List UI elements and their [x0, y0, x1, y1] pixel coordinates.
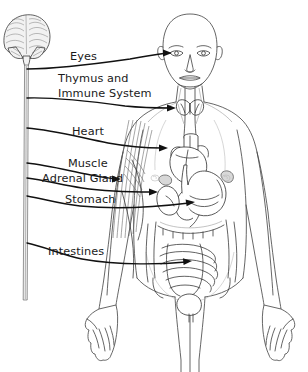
spinal-cord	[23, 65, 28, 300]
anatomy-diagram: Eyes Thymus and Immune System Heart Musc…	[0, 0, 308, 372]
label-eyes: Eyes	[70, 50, 97, 63]
label-heart: Heart	[72, 125, 104, 138]
kidney	[157, 186, 179, 215]
bladder	[177, 294, 202, 322]
label-adrenal-gland: Adrenal Gland	[42, 172, 123, 185]
label-intestines: Intestines	[48, 245, 104, 258]
label-texts: Eyes Thymus and Immune System Heart Musc…	[42, 50, 152, 258]
stomach-organ	[176, 165, 226, 227]
label-thymus-line2: Immune System	[58, 87, 152, 100]
diagram-canvas: Eyes Thymus and Immune System Heart Musc…	[0, 0, 308, 372]
brain-illustration	[4, 15, 50, 66]
label-thymus-line1: Thymus and	[57, 72, 129, 85]
label-muscle: Muscle	[68, 157, 108, 170]
label-stomach: Stomach	[65, 193, 116, 206]
leader-eyes	[27, 50, 172, 69]
